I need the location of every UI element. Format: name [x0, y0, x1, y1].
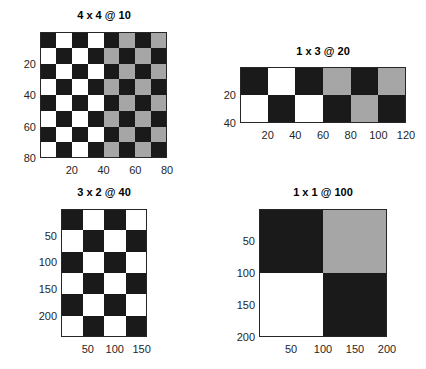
plot-axes — [61, 209, 147, 337]
checker-cell — [40, 48, 56, 64]
checker-cell — [40, 142, 56, 158]
y-tick-label: 60 — [6, 121, 36, 133]
checker-cell — [104, 95, 120, 111]
plot-title: 1 x 3 @ 20 — [296, 45, 350, 57]
checker-cell — [104, 230, 126, 252]
checker-cell — [104, 111, 120, 127]
y-tick-label: 80 — [6, 152, 36, 164]
checker-cell — [119, 127, 135, 143]
checker-cell — [119, 48, 135, 64]
checker-cell — [83, 294, 105, 316]
checker-cell — [61, 273, 83, 295]
checker-cell — [72, 111, 88, 127]
checker-cell — [72, 127, 88, 143]
plot-title: 1 x 1 @ 100 — [293, 186, 353, 198]
checker-cell — [323, 209, 387, 274]
y-tick-label: 100 — [225, 267, 255, 279]
y-tick-label: 100 — [27, 256, 57, 268]
checker-cell — [40, 95, 56, 111]
checker-cell — [61, 209, 83, 231]
y-tick-label: 200 — [27, 310, 57, 322]
x-tick-label: 200 — [372, 343, 402, 355]
checker-cell — [268, 67, 296, 96]
checker-cell — [56, 64, 72, 80]
checker-cell — [119, 79, 135, 95]
checker-cell — [351, 95, 379, 123]
checker-cell — [104, 48, 120, 64]
x-tick-label: 40 — [280, 129, 310, 141]
checker-cell — [88, 95, 104, 111]
y-tick-label: 50 — [225, 235, 255, 247]
checker-cell — [151, 32, 167, 48]
checker-cell — [104, 209, 126, 231]
checker-cell — [135, 79, 151, 95]
x-tick-label: 120 — [391, 129, 421, 141]
y-tick-label: 150 — [27, 283, 57, 295]
checker-cell — [323, 67, 351, 96]
checker-cell — [135, 142, 151, 158]
checker-cell — [83, 273, 105, 295]
checker-cell — [135, 95, 151, 111]
checker-cell — [56, 111, 72, 127]
checker-cell — [151, 127, 167, 143]
checker-cell — [88, 64, 104, 80]
checker-cell — [151, 79, 167, 95]
checker-cell — [378, 95, 406, 123]
checker-cell — [104, 252, 126, 274]
checker-cell — [88, 32, 104, 48]
checker-cell — [126, 273, 148, 295]
checker-cell — [88, 111, 104, 127]
checker-cell — [40, 79, 56, 95]
checker-cell — [56, 48, 72, 64]
checker-cell — [259, 209, 324, 274]
checker-cell — [126, 316, 148, 337]
checker-cell — [83, 209, 105, 231]
checker-cell — [104, 79, 120, 95]
x-tick-label: 150 — [127, 343, 157, 355]
checker-cell — [72, 64, 88, 80]
checker-cell — [119, 142, 135, 158]
checker-cell — [104, 294, 126, 316]
checker-cell — [61, 294, 83, 316]
checker-cell — [61, 316, 83, 337]
checker-cell — [323, 95, 351, 123]
plot-axes — [259, 209, 387, 337]
checker-cell — [295, 67, 323, 96]
checker-cell — [40, 64, 56, 80]
checker-cell — [126, 209, 148, 231]
y-tick-label: 40 — [206, 117, 236, 129]
checker-cell — [151, 142, 167, 158]
checker-cell — [104, 142, 120, 158]
checker-cell — [88, 79, 104, 95]
checker-cell — [83, 230, 105, 252]
checker-cell — [72, 142, 88, 158]
checker-cell — [40, 32, 56, 48]
checker-cell — [119, 95, 135, 111]
checker-cell — [259, 273, 324, 337]
checker-cell — [151, 95, 167, 111]
x-tick-label: 60 — [120, 164, 150, 176]
checker-cell — [126, 252, 148, 274]
checker-cell — [56, 142, 72, 158]
checker-cell — [119, 32, 135, 48]
x-tick-label: 50 — [276, 343, 306, 355]
x-tick-label: 20 — [57, 164, 87, 176]
y-tick-label: 20 — [206, 89, 236, 101]
checker-cell — [240, 67, 268, 96]
checker-cell — [104, 316, 126, 337]
x-tick-label: 20 — [253, 129, 283, 141]
checker-cell — [56, 127, 72, 143]
x-tick-label: 100 — [363, 129, 393, 141]
checker-cell — [104, 32, 120, 48]
checker-cell — [104, 127, 120, 143]
checker-cell — [119, 111, 135, 127]
plot-title: 3 x 2 @ 40 — [77, 186, 131, 198]
checker-cell — [151, 48, 167, 64]
checker-cell — [135, 48, 151, 64]
x-tick-label: 60 — [308, 129, 338, 141]
x-tick-label: 100 — [308, 343, 338, 355]
x-tick-label: 50 — [73, 343, 103, 355]
y-tick-label: 20 — [6, 58, 36, 70]
checker-cell — [126, 230, 148, 252]
checker-cell — [72, 48, 88, 64]
